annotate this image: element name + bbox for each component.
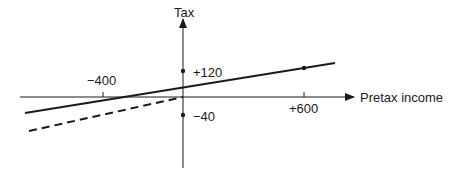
tick-label-minus40: −40 <box>193 110 215 123</box>
tax-chart <box>0 0 451 178</box>
tick-label-minus400: −400 <box>87 74 116 87</box>
tick-label-plus120: +120 <box>193 66 222 79</box>
x-axis-label: Pretax income <box>360 91 443 104</box>
y-axis-label: Tax <box>174 6 194 19</box>
point-plus120 <box>181 69 185 73</box>
tick-label-plus600: +600 <box>289 102 318 115</box>
dashed-loss-line <box>29 97 183 131</box>
point-minus40 <box>181 113 185 117</box>
point-600-120 <box>302 66 306 70</box>
